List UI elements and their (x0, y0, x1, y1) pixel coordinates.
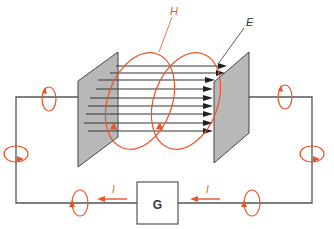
e-field-label: E (246, 16, 254, 28)
current-arrow-left: I (97, 184, 127, 202)
capacitor-field-diagram: G H E (0, 0, 334, 229)
left-plate (78, 52, 118, 167)
h-field-label: H (170, 5, 178, 17)
generator-label: G (153, 198, 162, 212)
e-leader-line (218, 28, 244, 64)
current-label-left: I (112, 184, 115, 195)
h-leader-line (159, 17, 172, 52)
current-arrow-right: I (190, 184, 220, 202)
current-label-right: I (206, 184, 209, 195)
generator-box: G (137, 182, 178, 224)
right-plate (214, 52, 249, 163)
